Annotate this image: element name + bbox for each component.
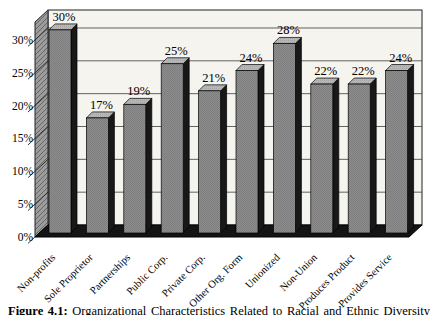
- bar-side-face: [408, 65, 414, 233]
- bar-data-label: 22%: [352, 64, 375, 78]
- figure-caption-label: Figure 4.1:: [8, 304, 68, 315]
- bar: [199, 85, 227, 233]
- y-tick-label: 30%: [12, 34, 34, 46]
- bar-side-face: [221, 85, 227, 233]
- bar-front-face: [273, 43, 295, 233]
- y-tick-label: 10%: [12, 165, 34, 177]
- bar-front-face: [199, 91, 221, 233]
- bar-front-face: [124, 104, 146, 233]
- bar-data-label: 24%: [240, 51, 263, 65]
- bar-front-face: [49, 30, 71, 233]
- bar-front-face: [161, 64, 183, 233]
- bar-side-face: [370, 78, 376, 233]
- bar-data-label: 25%: [165, 44, 188, 58]
- bar-side-face: [258, 65, 264, 233]
- bar-side-face: [333, 78, 339, 233]
- y-tick-label: 15%: [12, 132, 34, 144]
- bar-side-face: [71, 24, 77, 233]
- chart-canvas: 30%17%19%25%21%24%28%22%22%24%0%5%10%15%…: [0, 0, 434, 315]
- figure-caption: Figure 4.1: Organizational Characteristi…: [8, 304, 434, 315]
- bar-side-face: [295, 37, 301, 233]
- bar-side-face: [183, 58, 189, 233]
- bar: [236, 65, 264, 233]
- y-tick-label: 5%: [18, 198, 34, 210]
- figure-page: 30%17%19%25%21%24%28%22%22%24%0%5%10%15%…: [0, 0, 434, 315]
- bar: [86, 112, 114, 233]
- bar-side-face: [146, 98, 152, 233]
- y-tick-label: 0%: [18, 231, 34, 243]
- category-label: Unionized: [243, 251, 282, 290]
- bar: [273, 37, 301, 233]
- y-tick-label: 20%: [12, 100, 34, 112]
- y-tick-label: 25%: [12, 67, 34, 79]
- bar-front-face: [311, 84, 333, 233]
- bar: [348, 78, 376, 233]
- bar-front-face: [86, 118, 108, 233]
- bar-front-face: [386, 71, 408, 233]
- bar-front-face: [236, 71, 258, 233]
- bar: [161, 58, 189, 233]
- bar-data-label: 17%: [90, 98, 113, 112]
- bar-data-label: 19%: [127, 84, 150, 98]
- bar-data-label: 30%: [53, 10, 76, 24]
- bar-data-label: 21%: [202, 71, 225, 85]
- bar-side-face: [108, 112, 114, 233]
- figure-caption-text: Organizational Characteristics Related t…: [72, 304, 430, 315]
- bar: [386, 65, 414, 233]
- bar: [49, 24, 77, 233]
- bar: [124, 98, 152, 233]
- bar-data-label: 28%: [277, 23, 300, 37]
- bar-data-label: 24%: [389, 51, 412, 65]
- left-wall: [35, 10, 48, 237]
- bar-front-face: [348, 84, 370, 233]
- bar: [311, 78, 339, 233]
- bar-data-label: 22%: [314, 64, 337, 78]
